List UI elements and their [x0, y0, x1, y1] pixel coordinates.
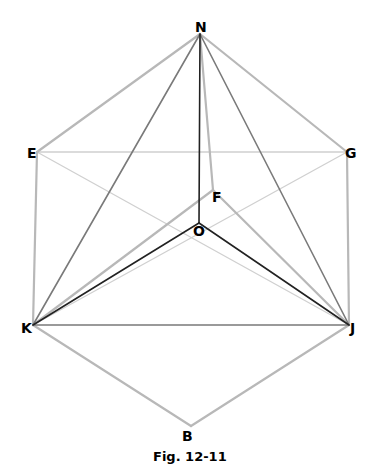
label-O: O [193, 223, 205, 239]
edge-OJ [199, 223, 349, 325]
label-G: G [345, 145, 357, 161]
edge-NO [199, 34, 200, 223]
edge-EK [33, 152, 37, 325]
label-K: K [21, 320, 33, 336]
figure-caption: Fig. 12-11 [153, 449, 227, 464]
edge-KB [33, 325, 191, 426]
edge-FK [33, 190, 213, 325]
edge-NK [33, 34, 200, 325]
label-B: B [182, 428, 193, 444]
edge-GK [33, 152, 347, 325]
label-E: E [27, 145, 37, 161]
edges-group [33, 34, 349, 426]
edge-GJ [347, 152, 349, 325]
geometry-figure: N E G F O K J B Fig. 12-11 [0, 0, 382, 467]
edge-JB [191, 325, 349, 426]
edge-FJ [213, 190, 349, 325]
edge-NF [200, 34, 213, 190]
label-F: F [212, 189, 222, 205]
edge-NE [37, 34, 200, 152]
edge-OK [33, 223, 199, 325]
labels-group: N E G F O K J B [21, 19, 357, 444]
label-J: J [349, 320, 355, 336]
label-N: N [195, 19, 207, 35]
edge-NG [200, 34, 347, 152]
edge-NJ [200, 34, 349, 325]
